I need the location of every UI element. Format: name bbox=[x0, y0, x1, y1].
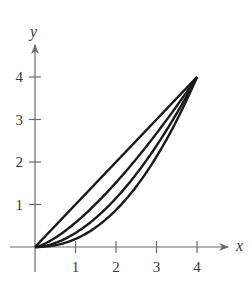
x-tick-label: 1 bbox=[72, 259, 80, 275]
chart: 1234 1234 x y bbox=[0, 0, 252, 288]
y-ticks: 1234 bbox=[16, 69, 42, 213]
y-tick-label: 4 bbox=[16, 69, 24, 85]
x-tick-label: 2 bbox=[112, 259, 120, 275]
series-curve-1 bbox=[35, 77, 197, 247]
y-tick-label: 3 bbox=[16, 112, 24, 128]
y-axis-label: y bbox=[28, 23, 38, 41]
y-tick-label: 1 bbox=[16, 197, 24, 213]
x-tick-label: 3 bbox=[153, 259, 161, 275]
x-tick-label: 4 bbox=[193, 259, 201, 275]
x-ticks: 1234 bbox=[72, 241, 202, 275]
curves bbox=[35, 77, 197, 247]
y-tick-label: 2 bbox=[16, 154, 24, 170]
x-axis-label: x bbox=[235, 237, 243, 254]
